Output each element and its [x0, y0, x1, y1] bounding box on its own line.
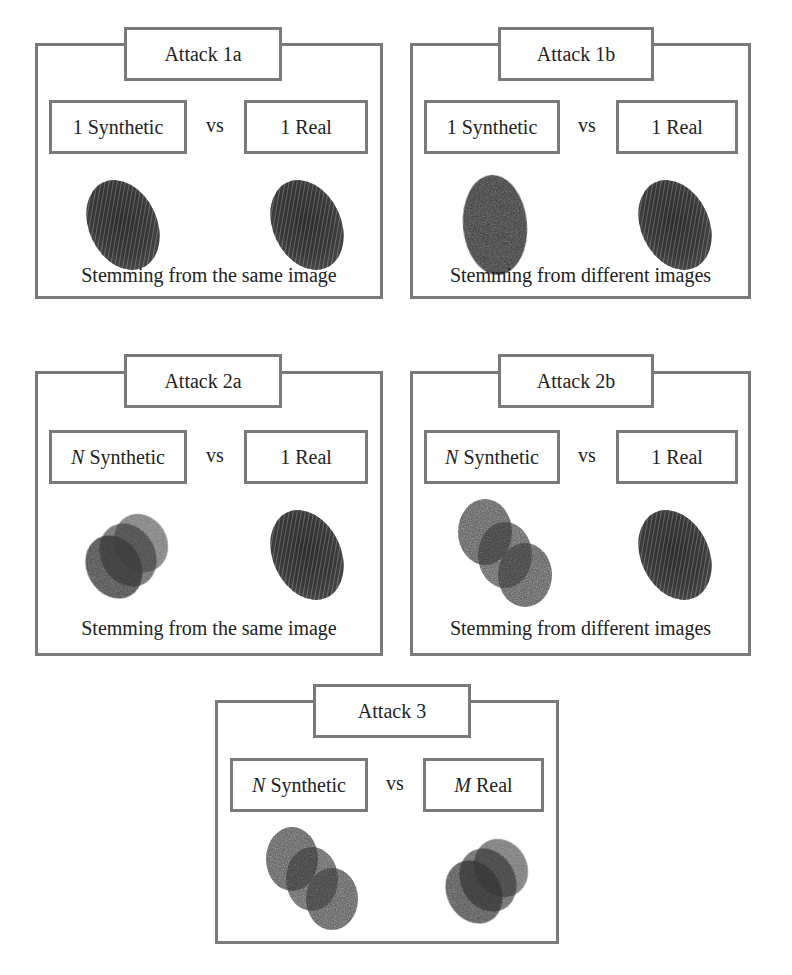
- panel-title-text: Attack 1b: [537, 43, 615, 66]
- label-text: Real: [666, 446, 703, 469]
- real-label-box: 1 Real: [616, 100, 738, 154]
- panel-title-attack-2b: Attack 2b: [498, 354, 654, 408]
- vs-text: vs: [375, 772, 415, 795]
- label-prefix: 1: [73, 116, 83, 139]
- panel-title-attack-1a: Attack 1a: [124, 27, 282, 81]
- multiple-real-fingerprints-image: [438, 830, 533, 930]
- panel-caption: Stemming from the same image: [35, 264, 383, 287]
- panel-title-text: Attack 2b: [537, 370, 615, 393]
- label-text: Real: [295, 116, 332, 139]
- label-prefix: 1: [280, 116, 290, 139]
- panel-caption: Stemming from different images: [410, 617, 751, 640]
- label-prefix: 1: [651, 446, 661, 469]
- panel-title-text: Attack 3: [358, 700, 426, 723]
- real-fingerprint-image: [262, 175, 352, 275]
- panel-title-attack-1b: Attack 1b: [498, 27, 654, 81]
- vs-text: vs: [195, 114, 235, 137]
- label-prefix: 1: [447, 116, 457, 139]
- panel-title-text: Attack 1a: [164, 43, 241, 66]
- real-label-box: 1 Real: [244, 430, 368, 484]
- panel-title-attack-3: Attack 3: [313, 684, 471, 738]
- label-prefix: N: [252, 774, 265, 797]
- label-text: Real: [476, 774, 513, 797]
- label-text: Synthetic: [89, 446, 165, 469]
- multiple-synthetic-fingerprints-image: [455, 495, 555, 610]
- panel-caption: Stemming from the same image: [35, 617, 383, 640]
- label-text: Synthetic: [462, 116, 538, 139]
- label-prefix: N: [71, 446, 84, 469]
- real-fingerprint-image: [262, 505, 352, 605]
- synthetic-fingerprint-image: [78, 175, 168, 275]
- label-prefix: 1: [651, 116, 661, 139]
- label-text: Synthetic: [463, 446, 539, 469]
- synthetic-label-box: N Synthetic: [230, 758, 368, 812]
- synthetic-label-box: N Synthetic: [49, 430, 187, 484]
- real-label-box: 1 Real: [616, 430, 738, 484]
- real-label-box: 1 Real: [244, 100, 368, 154]
- multiple-synthetic-fingerprints-image: [78, 505, 173, 605]
- label-text: Synthetic: [270, 774, 346, 797]
- synthetic-label-box: 1 Synthetic: [424, 100, 560, 154]
- real-fingerprint-image: [630, 175, 720, 275]
- label-text: Real: [666, 116, 703, 139]
- label-text: Synthetic: [88, 116, 164, 139]
- vs-text: vs: [567, 444, 607, 467]
- label-prefix: 1: [280, 446, 290, 469]
- vs-text: vs: [567, 114, 607, 137]
- real-fingerprint-image: [630, 505, 720, 605]
- label-prefix: N: [445, 446, 458, 469]
- vs-text: vs: [195, 444, 235, 467]
- panel-caption: Stemming from different images: [410, 264, 751, 287]
- panel-title-attack-2a: Attack 2a: [124, 354, 282, 408]
- synthetic-label-box: 1 Synthetic: [49, 100, 187, 154]
- panel-title-text: Attack 2a: [164, 370, 241, 393]
- label-text: Real: [295, 446, 332, 469]
- label-prefix: M: [454, 774, 471, 797]
- synthetic-label-box: N Synthetic: [424, 430, 560, 484]
- real-label-box: M Real: [423, 758, 544, 812]
- multiple-synthetic-fingerprints-image: [262, 823, 362, 933]
